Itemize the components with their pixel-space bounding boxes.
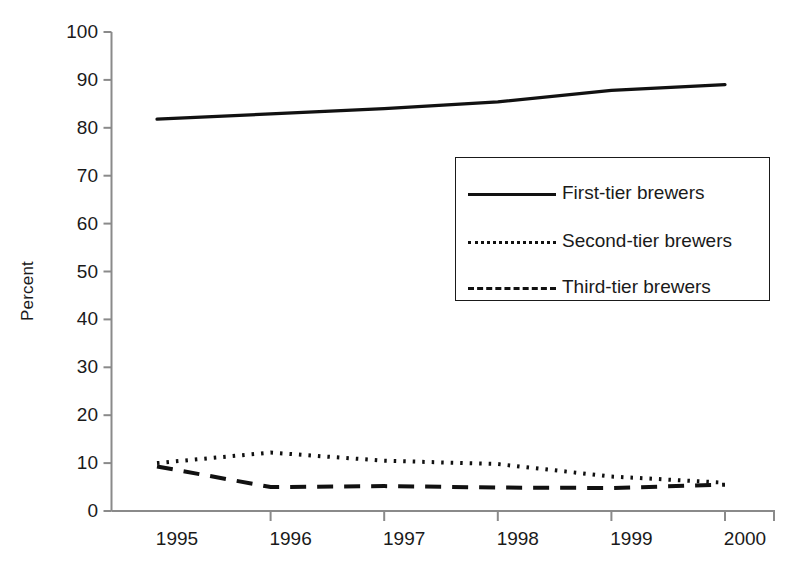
x-axis-tick-label: 1998 [497, 528, 539, 550]
x-axis-ticks [271, 511, 725, 521]
y-axis-tick-label: 50 [40, 261, 98, 283]
series-line-2 [157, 453, 725, 483]
x-axis-tick-label: 1995 [156, 528, 198, 550]
series-line-1 [157, 85, 725, 119]
y-axis-tick-label: 70 [40, 165, 98, 187]
x-axis-tick-label: 1999 [610, 528, 652, 550]
legend-label: Second-tier brewers [556, 230, 732, 252]
x-axis-tick-label: 1996 [269, 528, 311, 550]
y-axis-tick-label: 40 [40, 308, 98, 330]
legend-label: Third-tier brewers [556, 276, 711, 298]
legend-line-sample-dotted-icon [468, 234, 556, 248]
series-line-3 [157, 466, 725, 488]
legend-entry-second-tier: Second-tier brewers [456, 224, 769, 258]
x-axis-tick-label: 2000 [724, 528, 766, 550]
chart-legend: First-tier brewers Second-tier brewers T… [455, 157, 770, 301]
y-axis-tick-label: 80 [40, 117, 98, 139]
y-axis-tick-label: 60 [40, 213, 98, 235]
legend-line-sample-dashed-icon [468, 280, 556, 294]
y-axis-tick-label: 20 [40, 404, 98, 426]
y-axis-tick-label: 0 [40, 500, 98, 522]
y-axis-tick-label: 100 [40, 21, 98, 43]
line-chart: Percent 0102030405060708090100 199519961… [0, 0, 808, 582]
y-axis-tick-label: 90 [40, 69, 98, 91]
legend-line-sample-solid-icon [468, 186, 556, 200]
y-axis-ticks [104, 32, 112, 511]
x-axis-tick-label: 1997 [383, 528, 425, 550]
legend-entry-third-tier: Third-tier brewers [456, 270, 769, 304]
legend-entry-first-tier: First-tier brewers [456, 176, 769, 210]
legend-label: First-tier brewers [556, 182, 705, 204]
y-axis-tick-label: 30 [40, 356, 98, 378]
y-axis-tick-label: 10 [40, 452, 98, 474]
